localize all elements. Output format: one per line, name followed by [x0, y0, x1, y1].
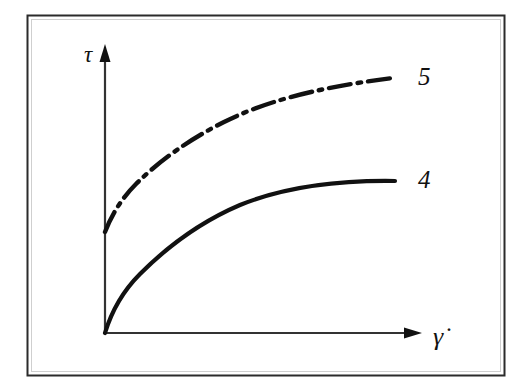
y-axis-label: τ: [84, 42, 93, 67]
curve-5-label: 5: [418, 63, 431, 90]
curve-4-label: 4: [418, 166, 431, 193]
flow-curve-chart: τ γ̇ 5 4: [0, 0, 521, 391]
figure-root: τ γ̇ 5 4: [0, 0, 521, 391]
